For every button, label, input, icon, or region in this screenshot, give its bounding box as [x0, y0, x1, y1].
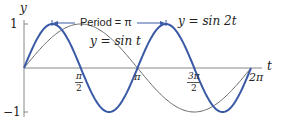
period-label: Period = π — [80, 17, 132, 28]
sin-2t-label: y = sin 2t — [178, 15, 236, 27]
sin-t-label: y = sin t — [90, 35, 141, 47]
t-axis-label: t — [267, 60, 272, 72]
tick-label-3pi-over-2: 3π 2 — [187, 72, 201, 93]
tick-label-2pi: 2π — [249, 72, 263, 83]
tick-label-pi-over-2: π 2 — [75, 72, 83, 93]
y-tick-label-1: 1 — [10, 18, 18, 30]
y-tick-label-minus1: −1 — [3, 106, 21, 118]
tick-label-pi: π — [134, 72, 141, 82]
y-axis-label: y — [20, 2, 27, 14]
sine-graph — [0, 0, 282, 127]
